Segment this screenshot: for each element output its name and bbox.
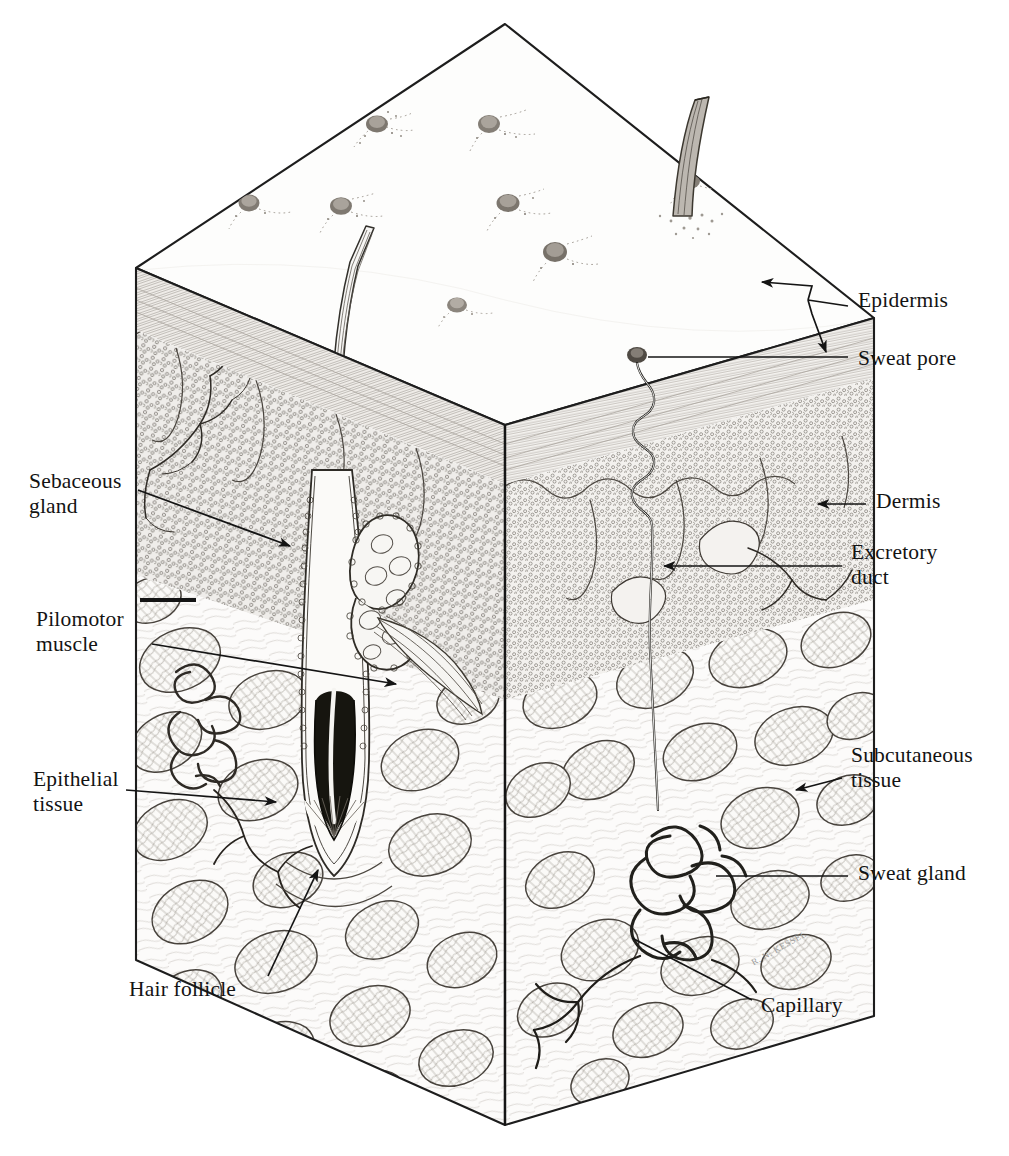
label-excretory-duct: Excretory duct (851, 540, 938, 590)
label-subcutaneous-tissue: Subcutaneous tissue (851, 743, 973, 793)
label-capillary: Capillary (761, 993, 843, 1018)
label-epithelial-tissue: Epithelial tissue (33, 767, 119, 817)
label-hair-follicle: Hair follicle (129, 977, 236, 1002)
label-sweat-gland: Sweat gland (858, 861, 966, 886)
label-sebaceous-gland: Sebaceous gland (29, 469, 122, 519)
label-pilomotor-muscle: Pilomotor muscle (36, 607, 124, 657)
label-sweat-pore: Sweat pore (858, 346, 956, 371)
label-dermis: Dermis (876, 489, 941, 514)
skin-diagram-figure: Epidermis Sweat pore Dermis Excretory du… (0, 0, 1009, 1156)
label-epidermis: Epidermis (858, 288, 948, 313)
